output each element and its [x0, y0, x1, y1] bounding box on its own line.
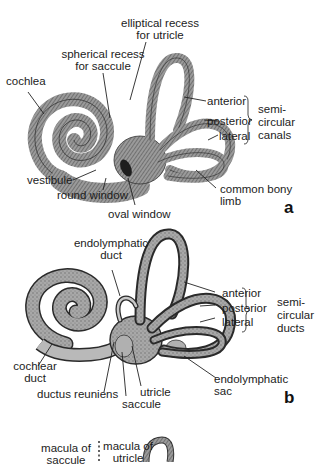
- label-elliptical-recess: elliptical recess for utricle: [118, 17, 202, 41]
- label-round-window: round window: [57, 189, 128, 201]
- label-line: limb: [220, 195, 292, 207]
- label-utricle: utricle: [140, 386, 171, 398]
- label-line: cochlear: [10, 360, 60, 372]
- label-line: saccule: [38, 454, 94, 466]
- label-line: endolymphatic: [66, 237, 156, 249]
- label-endolymphatic-duct: endolymphatic duct: [66, 237, 156, 261]
- label-lateral-duct: lateral: [222, 316, 253, 328]
- label-endolymphatic-sac: endolymphatic sac: [214, 373, 288, 397]
- label-line: for utricle: [118, 29, 202, 41]
- panel-letter-a: a: [284, 198, 293, 218]
- label-cochlear-duct: cochlear duct: [10, 360, 60, 384]
- cochlear-duct-shape-b: [33, 276, 116, 355]
- label-semicircular-ducts: semi- circular ducts: [277, 296, 314, 335]
- label-line: common bony: [220, 183, 292, 195]
- label-anterior-canal: anterior: [207, 95, 246, 107]
- label-lateral-canal: lateral: [219, 130, 250, 142]
- label-line: canals: [258, 129, 295, 142]
- label-line: spherical recess: [58, 48, 148, 60]
- label-semicircular-canals: semi- circular canals: [258, 103, 295, 142]
- label-oval-window: oval window: [108, 208, 171, 220]
- label-cochlea: cochlea: [6, 75, 46, 87]
- label-posterior-duct: posterior: [222, 302, 267, 314]
- label-line: elliptical recess: [118, 17, 202, 29]
- label-common-bony-limb: common bony limb: [220, 183, 292, 207]
- label-line: duct: [10, 372, 60, 384]
- label-posterior-canal: posterior: [207, 115, 252, 127]
- label-macula-of-saccule: macula of saccule: [38, 442, 94, 466]
- label-spherical-recess: spherical recess for saccule: [58, 48, 148, 72]
- label-line: duct: [66, 249, 156, 261]
- label-vestibule: vestibule: [27, 174, 72, 186]
- label-saccule: saccule: [122, 398, 161, 410]
- panel-letter-b: b: [284, 388, 294, 408]
- label-anterior-duct: anterior: [222, 287, 261, 299]
- label-line: endolymphatic: [214, 373, 288, 385]
- label-line: macula of: [100, 440, 156, 452]
- label-line: for saccule: [58, 60, 148, 72]
- label-line: sac: [214, 385, 288, 397]
- label-line: utricle: [100, 452, 156, 464]
- label-line: circular: [277, 309, 314, 322]
- label-line: macula of: [38, 442, 94, 454]
- label-macula-of-utricle: macula of utricle: [100, 440, 156, 464]
- label-line: ducts: [277, 322, 314, 335]
- label-line: semi-: [258, 103, 295, 116]
- label-line: circular: [258, 116, 295, 129]
- label-ductus-reuniens: ductus reuniens: [37, 388, 118, 400]
- label-line: semi-: [277, 296, 314, 309]
